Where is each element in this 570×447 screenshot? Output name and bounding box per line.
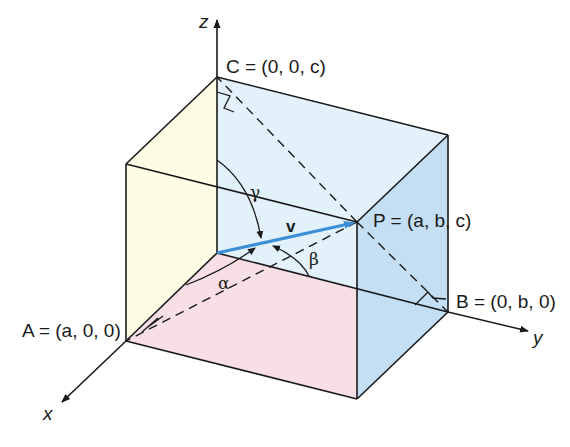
y-axis <box>448 312 528 331</box>
point-P-label: P = (a, b, c) <box>373 210 471 231</box>
point-B-label: B = (0, b, 0) <box>456 291 556 312</box>
direction-angles-diagram: z y x C = (0, 0, c) P = (a, b, c) B = (0… <box>0 0 570 447</box>
z-axis-label: z <box>198 11 209 32</box>
point-A-label: A = (a, 0, 0) <box>22 320 121 341</box>
beta-label: β <box>309 249 319 269</box>
alpha-label: α <box>218 273 230 293</box>
vector-v-label: v <box>286 217 296 236</box>
y-axis-label: y <box>531 327 544 348</box>
x-axis-label: x <box>42 403 54 424</box>
point-C-label: C = (0, 0, c) <box>226 56 326 77</box>
gamma-label: γ <box>250 182 260 202</box>
x-axis <box>62 341 126 402</box>
